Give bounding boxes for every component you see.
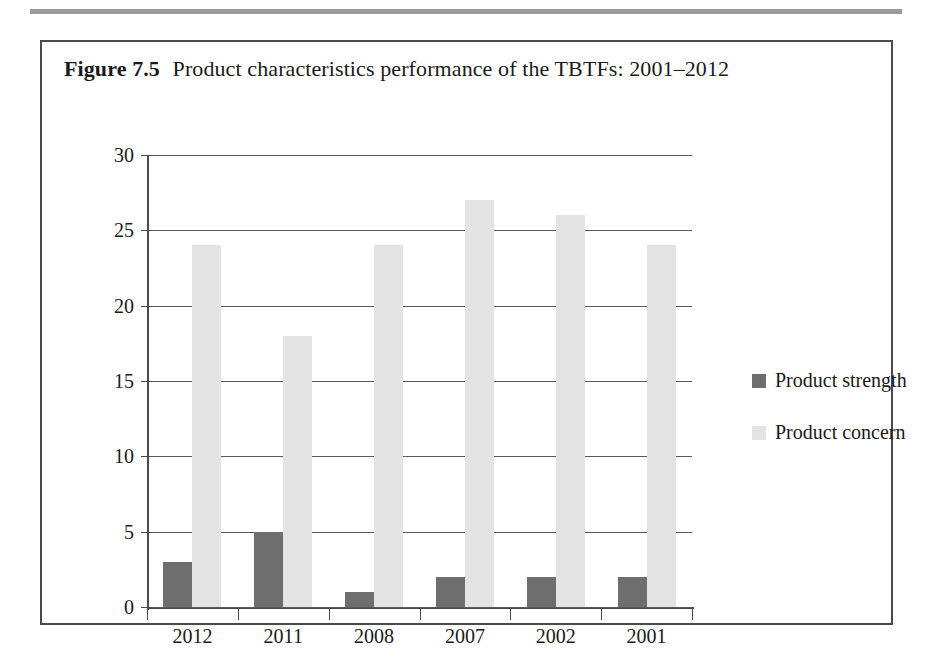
legend-item: Product strength	[752, 369, 931, 392]
y-tick-label: 0	[124, 596, 134, 619]
x-axis-tick-labels: 201220112008200720022001	[147, 625, 694, 655]
gridline	[147, 381, 692, 382]
legend-label: Product strength	[775, 369, 907, 392]
bar-group	[436, 155, 494, 607]
x-tick-label: 2012	[172, 625, 212, 648]
y-tick-mark	[141, 532, 151, 533]
x-tick-label: 2008	[354, 625, 394, 648]
bar	[556, 215, 585, 607]
x-tick-label: 2007	[445, 625, 485, 648]
x-tick-mark	[601, 608, 602, 620]
y-tick-label: 5	[124, 520, 134, 543]
bar	[192, 245, 221, 607]
x-tick-mark	[420, 608, 421, 620]
y-tick-mark	[141, 155, 151, 156]
bar	[465, 200, 494, 607]
gridline	[147, 532, 692, 533]
bar	[647, 245, 676, 607]
y-tick-mark	[141, 230, 151, 231]
figure-number: 7.5	[132, 56, 160, 81]
gridline	[147, 306, 692, 307]
y-tick-mark	[141, 456, 151, 457]
chart-legend: Product strengthProduct concern	[752, 369, 931, 473]
x-tick-mark	[238, 608, 239, 620]
x-tick-mark	[510, 608, 511, 620]
gridline	[147, 230, 692, 231]
bar	[283, 336, 312, 607]
y-tick-mark	[141, 306, 151, 307]
legend-swatch-icon	[752, 426, 766, 440]
plot-area	[147, 155, 692, 607]
bar	[527, 577, 556, 607]
x-tick-mark	[147, 608, 148, 620]
x-tick-label: 2001	[627, 625, 667, 648]
figure-caption: Product characteristics performance of t…	[173, 56, 730, 81]
bar	[163, 562, 192, 607]
bar	[374, 245, 403, 607]
bar-group	[163, 155, 221, 607]
y-tick-mark	[141, 607, 151, 608]
bar	[254, 532, 283, 607]
bar-group	[345, 155, 403, 607]
x-tick-label: 2002	[536, 625, 576, 648]
bar	[436, 577, 465, 607]
page-top-rule	[30, 9, 902, 14]
legend-swatch-icon	[752, 374, 766, 388]
figure-label: Figure	[64, 56, 127, 81]
y-tick-label: 25	[114, 219, 134, 242]
y-tick-mark	[141, 381, 151, 382]
legend-item: Product concern	[752, 421, 931, 444]
bar	[345, 592, 374, 607]
gridline	[147, 456, 692, 457]
x-tick-label: 2011	[264, 625, 303, 648]
figure-title: Figure 7.5 Product characteristics perfo…	[64, 56, 729, 82]
x-tick-mark	[692, 608, 693, 620]
y-tick-label: 30	[114, 144, 134, 167]
x-tick-mark	[329, 608, 330, 620]
bar-group	[618, 155, 676, 607]
legend-label: Product concern	[775, 421, 906, 444]
figure-container: Figure 7.5 Product characteristics perfo…	[40, 40, 893, 625]
bar-group	[527, 155, 585, 607]
bar	[618, 577, 647, 607]
y-tick-label: 20	[114, 294, 134, 317]
y-axis-tick-labels: 051015202530	[90, 155, 134, 607]
y-tick-label: 10	[114, 445, 134, 468]
y-tick-label: 15	[114, 370, 134, 393]
gridline	[147, 155, 692, 156]
bar-group	[254, 155, 312, 607]
